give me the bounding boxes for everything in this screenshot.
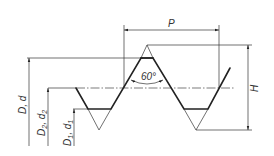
angle-label: 60° (141, 71, 156, 82)
trough-triangle-left (88, 109, 111, 130)
trough-triangle-right (184, 109, 208, 130)
height-label: H (249, 84, 260, 92)
major-diameter-label: D, d (17, 95, 28, 114)
thread-profile-diagram: 60° P H D, d D2, d2 D1, d1 (0, 0, 274, 156)
crest-triangle (141, 45, 153, 58)
pitch-diameter-label: D2, d2 (36, 110, 48, 136)
pitch-label: P (168, 18, 175, 29)
minor-diameter-label: D1, d1 (62, 120, 74, 146)
